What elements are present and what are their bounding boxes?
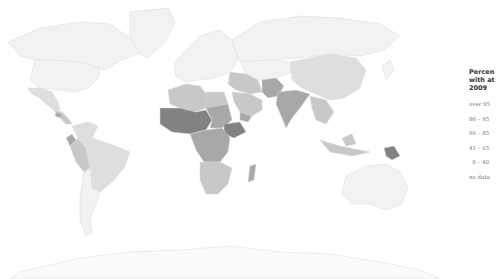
region-india[interactable] — [276, 90, 310, 128]
legend-item-0-40: 0 – 40 — [469, 158, 489, 173]
region-usa[interactable] — [30, 60, 100, 92]
region-papua-new-guinea[interactable] — [384, 146, 400, 160]
region-southeast-asia[interactable] — [310, 96, 334, 124]
region-antarctica — [10, 246, 440, 279]
legend-item-41-65: 41 – 65 — [469, 144, 489, 159]
region-arabia[interactable] — [232, 92, 262, 116]
region-japan[interactable] — [382, 60, 394, 80]
region-russia[interactable] — [232, 16, 400, 62]
region-central-africa[interactable] — [190, 128, 230, 162]
legend-item-66-85: 66 – 85 — [469, 129, 489, 144]
legend-title: Percen with at 2009 — [469, 68, 499, 92]
region-indonesia[interactable] — [320, 134, 370, 156]
region-southern-africa[interactable] — [200, 162, 232, 194]
region-europe[interactable] — [174, 30, 238, 82]
legend: Percen with at 2009 over 95 86 – 95 66 –… — [469, 68, 499, 188]
legend-item-86-95: 86 – 95 — [469, 115, 489, 130]
region-sahel-west-africa[interactable] — [160, 108, 212, 134]
region-south-america-north[interactable] — [72, 122, 98, 138]
region-madagascar[interactable] — [248, 164, 256, 182]
region-australia[interactable] — [342, 164, 408, 210]
legend-items: over 95 86 – 95 66 – 85 41 – 65 0 – 40 n… — [469, 100, 499, 188]
legend-item-no-data: no data — [469, 173, 489, 188]
legend-item-over-95: over 95 — [469, 100, 489, 115]
region-mexico[interactable] — [28, 88, 60, 110]
